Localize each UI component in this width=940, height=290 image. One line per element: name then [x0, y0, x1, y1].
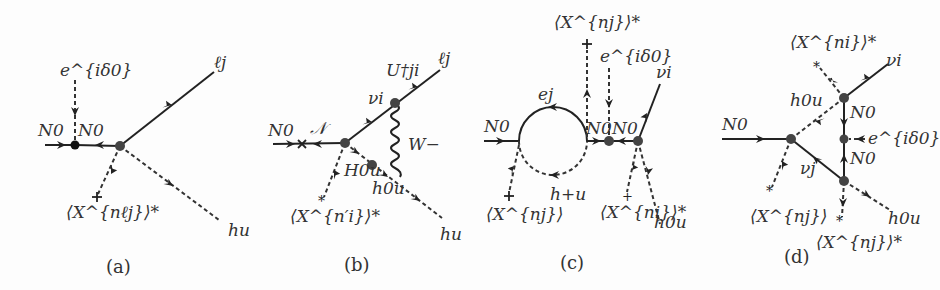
label-b-w: W−	[408, 136, 440, 153]
label-b-vev: ⟨X^{n′i}⟩*	[290, 208, 380, 225]
label-c-n0-b: N0	[612, 120, 638, 137]
label-c-n0-a: N0	[586, 120, 612, 137]
vertex-dot	[340, 138, 350, 148]
label-b-lepton: ℓj	[438, 50, 450, 67]
label-a-vev: ⟨X^{nℓj}⟩*	[66, 204, 159, 221]
label-c-vev-left: ⟨X^{nj}⟩	[486, 206, 563, 223]
label-b-nu: νi	[368, 90, 384, 107]
label-d-h0-bottom: h0u	[888, 210, 921, 227]
label-b-higgs: hu	[440, 226, 462, 243]
star-icon: *	[836, 213, 843, 229]
vertex-dot	[839, 176, 849, 186]
star-icon: *	[813, 59, 820, 75]
vertex-dot	[71, 141, 80, 150]
label-a-higgs: hu	[228, 222, 250, 239]
label-d-n0-in: N0	[722, 116, 748, 133]
caption-c: (c)	[560, 254, 584, 272]
label-d-nu-i: νi	[886, 52, 902, 69]
label-c-h-plus: h+u	[550, 186, 586, 203]
label-d-phase: e^{iδ0}	[868, 130, 940, 147]
caption-d: (d)	[784, 248, 810, 266]
label-a-lepton: ℓj	[214, 54, 226, 71]
label-a-phase: e^{iδ0}	[60, 62, 132, 79]
cross-icon	[582, 39, 592, 49]
vev-bottom-dashed-line	[842, 181, 844, 217]
label-b-n-mid: 𝒩	[310, 120, 326, 137]
vev-dashed-line	[98, 146, 120, 194]
vertex-dot	[839, 93, 849, 103]
label-d-h0-top: h0u	[790, 92, 823, 109]
label-b-h-small: h0u	[372, 180, 405, 197]
vev-right-dashed-line	[627, 141, 638, 192]
lepton-line	[120, 72, 214, 146]
label-d-vev-bottom: ⟨X^{nj}⟩*	[816, 234, 902, 251]
loop-fermion-arc	[519, 107, 587, 141]
w-boson-wavy-line	[391, 104, 401, 177]
arrow-icon	[583, 89, 591, 98]
cross-icon	[504, 191, 514, 201]
star-icon: *	[766, 183, 773, 199]
diagram-d: * * *	[722, 59, 890, 229]
label-c-nu: νi	[656, 64, 672, 81]
vertex-dot	[390, 98, 400, 108]
label-a-n0-in: N0	[38, 122, 64, 139]
arrow-icon	[839, 198, 847, 207]
vertex-dot	[115, 141, 125, 151]
label-c-h0: h0u	[654, 214, 687, 231]
n0-line	[273, 143, 345, 144]
label-a-n0-mid: N0	[78, 122, 104, 139]
arrow-icon	[605, 99, 613, 108]
vev-dashed-line	[324, 143, 345, 197]
diagram-a	[45, 72, 219, 220]
label-c-n0-in: N0	[484, 118, 510, 135]
label-d-nu-j: νj	[800, 160, 816, 177]
caption-b: (b)	[344, 256, 370, 274]
caption-a: (a)	[106, 258, 131, 276]
label-b-u: U†ji	[386, 62, 420, 79]
loop-scalar-arc	[519, 141, 587, 175]
vev-top-dashed-line	[820, 68, 844, 98]
label-d-n0-a: N0	[850, 104, 876, 121]
label-c-e: ej	[538, 86, 553, 103]
label-d-n0-b: N0	[850, 150, 876, 167]
cross-icon	[92, 192, 102, 202]
label-d-vev-top: ⟨X^{ni}⟩*	[790, 34, 876, 51]
arrow-icon	[815, 119, 825, 126]
label-b-h-big: H0u	[344, 162, 381, 179]
vertex-dot	[840, 135, 849, 144]
arrow-icon	[782, 161, 788, 171]
label-b-n0-in: N0	[268, 122, 294, 139]
arrow-icon	[334, 170, 340, 180]
vev-left-dashed-line	[772, 139, 791, 187]
neutrino-line	[638, 84, 660, 141]
neutrino-i-line	[844, 64, 888, 98]
label-d-vev-left: ⟨X^{nj}⟩	[750, 208, 827, 225]
label-c-vev-top: ⟨X^{nj}⟩*	[554, 14, 640, 31]
vertex-dot	[786, 134, 796, 144]
